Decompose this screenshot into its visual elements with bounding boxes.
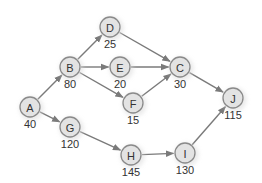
node-label: A (26, 102, 34, 114)
node-label: D (106, 22, 114, 34)
node-value: 145 (122, 166, 140, 178)
edge-b-d-arrow (78, 35, 102, 59)
node-label: I (183, 148, 186, 160)
edge-d-c-arrow (120, 33, 170, 62)
edge-a-g-arrow (40, 112, 60, 122)
edge-f-c-arrow (142, 74, 171, 96)
edge-c-j-arrow (190, 73, 224, 93)
node-value: 30 (174, 78, 186, 90)
diagram-canvas: A40B80D25E20F15C30J115G120H145I130 (0, 0, 262, 183)
edge-h-i-arrow (142, 153, 174, 154)
node-value: 15 (127, 114, 139, 126)
node-label: G (66, 122, 75, 134)
node-label: F (130, 98, 137, 110)
node-value: 40 (24, 118, 36, 130)
node-g: G120 (60, 117, 84, 151)
network-diagram: A40B80D25E20F15C30J115G120H145I130 (0, 0, 262, 183)
node-label: H (127, 150, 135, 162)
node-label: B (66, 62, 73, 74)
node-value: 130 (176, 164, 194, 176)
node-label: E (116, 62, 123, 74)
node-value: 80 (64, 78, 76, 90)
node-label: J (230, 93, 236, 105)
node-value: 25 (104, 38, 116, 50)
edge-i-j-arrow (192, 107, 225, 145)
node-i: I130 (175, 143, 199, 177)
node-value: 120 (61, 138, 79, 150)
node-b: B80 (60, 57, 84, 91)
node-c: C30 (170, 57, 194, 91)
node-a: A40 (20, 97, 44, 131)
node-h: H145 (121, 145, 145, 179)
node-value: 20 (114, 78, 126, 90)
node-j: J115 (223, 88, 247, 122)
node-value: 115 (224, 109, 242, 121)
node-f: F15 (123, 93, 147, 127)
edge-a-b-arrow (38, 75, 62, 99)
node-e: E20 (110, 57, 134, 91)
node-d: D25 (100, 17, 124, 51)
node-label: C (176, 62, 184, 74)
edge-g-h-arrow (80, 132, 121, 151)
